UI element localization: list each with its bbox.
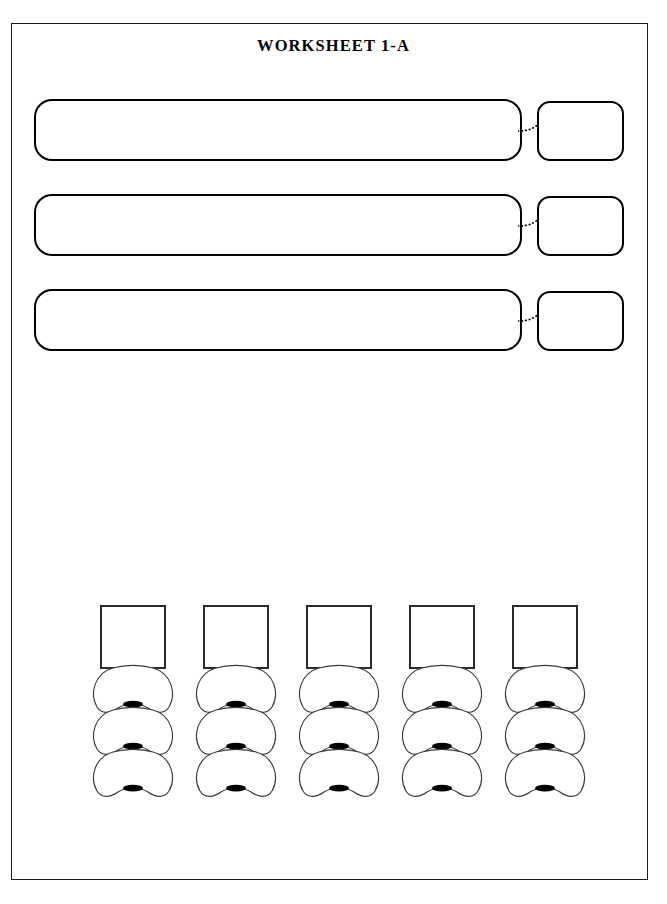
prompt-row bbox=[0, 289, 667, 355]
question-box[interactable] bbox=[34, 99, 522, 161]
page-title: WORKSHEET 1-A bbox=[0, 36, 667, 56]
seat-column bbox=[91, 600, 175, 810]
seat-top-view-icon[interactable] bbox=[194, 747, 278, 797]
answer-box[interactable] bbox=[537, 196, 624, 256]
seat-top-view-icon[interactable] bbox=[503, 747, 587, 797]
seat-grid bbox=[0, 600, 667, 810]
question-box[interactable] bbox=[34, 289, 522, 351]
seat-top-view-icon[interactable] bbox=[91, 747, 175, 797]
worksheet-page: WORKSHEET 1-A bbox=[0, 0, 667, 904]
seat-label-square[interactable] bbox=[409, 605, 475, 669]
seat-label-square[interactable] bbox=[100, 605, 166, 669]
seat-column bbox=[400, 600, 484, 810]
seat-top-view-icon[interactable] bbox=[400, 747, 484, 797]
prompt-row bbox=[0, 194, 667, 260]
answer-box[interactable] bbox=[537, 291, 624, 351]
seat-column bbox=[503, 600, 587, 810]
question-box[interactable] bbox=[34, 194, 522, 256]
seat-label-square[interactable] bbox=[203, 605, 269, 669]
seat-label-square[interactable] bbox=[512, 605, 578, 669]
seat-top-view-icon[interactable] bbox=[297, 747, 381, 797]
seat-column bbox=[194, 600, 278, 810]
prompt-row bbox=[0, 99, 667, 165]
seat-column bbox=[297, 600, 381, 810]
answer-box[interactable] bbox=[537, 101, 624, 161]
seat-label-square[interactable] bbox=[306, 605, 372, 669]
